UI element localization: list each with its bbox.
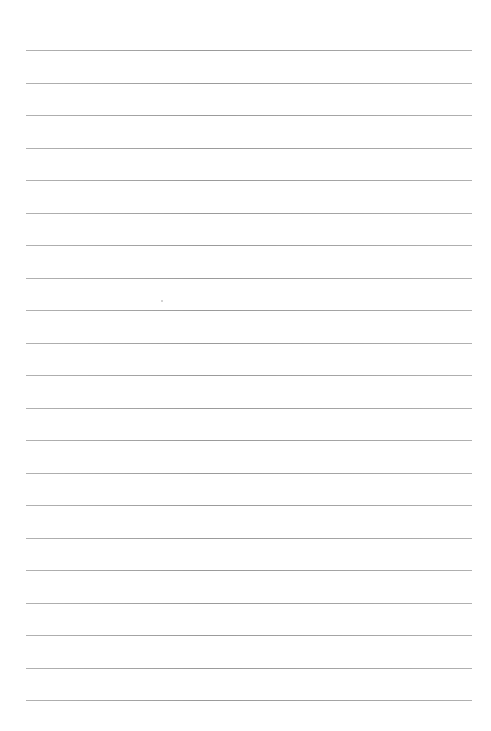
ruled-line (26, 310, 472, 311)
ruled-line (26, 343, 472, 344)
ruled-line (26, 538, 472, 539)
ruled-line (26, 375, 472, 376)
ruled-line (26, 213, 472, 214)
ruled-line (26, 148, 472, 149)
ruled-line (26, 700, 472, 701)
ruled-line (26, 278, 472, 279)
ruled-line (26, 408, 472, 409)
ruled-paper-page (0, 0, 491, 731)
ruled-line (26, 505, 472, 506)
ruled-line (26, 570, 472, 571)
paper-speck (161, 300, 163, 302)
ruled-line (26, 180, 472, 181)
ruled-line (26, 115, 472, 116)
ruled-line (26, 83, 472, 84)
ruled-line (26, 440, 472, 441)
ruled-line (26, 668, 472, 669)
ruled-line (26, 473, 472, 474)
ruled-line (26, 50, 472, 51)
ruled-line (26, 245, 472, 246)
ruled-line (26, 603, 472, 604)
ruled-line (26, 635, 472, 636)
